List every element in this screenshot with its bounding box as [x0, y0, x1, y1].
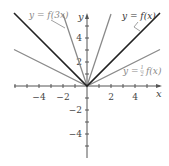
- x-tick-label: 2: [108, 92, 114, 102]
- function-graph: −4 −2 2 4 x 4 2 −2 −4 y y = f(3x): [0, 0, 169, 166]
- label-half-f-x: y = 1 2 f(x): [122, 64, 162, 77]
- y-axis-label: y: [77, 11, 84, 22]
- x-tick-label: −4: [32, 92, 46, 102]
- label-f-x-text: y = f(x): [121, 11, 156, 21]
- y-tick-label: −2: [69, 105, 82, 115]
- leader-line: [134, 22, 140, 31]
- label-half-suffix: f(x): [145, 66, 162, 76]
- x-axis: −4 −2 2 4 x: [14, 84, 162, 102]
- label-half-den: 2: [139, 71, 143, 77]
- label-half-prefix: y =: [122, 66, 139, 76]
- x-tick-label: 4: [132, 92, 138, 102]
- label-f-3x-text: y = f(3x): [28, 10, 69, 20]
- x-axis-label: x: [156, 88, 162, 99]
- x-tick-label: −2: [56, 92, 69, 102]
- label-half-num: 1: [140, 64, 143, 70]
- label-f-3x: y = f(3x): [28, 10, 69, 28]
- leader-line: [51, 20, 65, 28]
- y-tick-label: 4: [76, 33, 82, 43]
- y-axis-arrow-icon: [85, 13, 89, 19]
- y-tick-label: −4: [69, 129, 83, 139]
